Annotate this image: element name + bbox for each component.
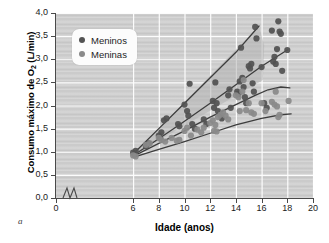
x-tick-mark — [262, 199, 263, 203]
x-tick-label: 20 — [303, 203, 323, 213]
x-tick-mark — [56, 199, 57, 203]
y-tick-mark — [51, 82, 56, 83]
x-tick-mark — [236, 199, 237, 203]
panel-label: a — [18, 216, 23, 226]
x-axis-title: Idade (anos) — [56, 222, 313, 233]
y-tick-mark — [51, 175, 56, 176]
x-tick-label: 14 — [226, 203, 246, 213]
legend-item-meninos: Meninos — [79, 33, 127, 47]
axis-break-icon — [62, 186, 78, 200]
y-tick-mark — [51, 13, 56, 14]
legend-item-meninas: Meninas — [79, 47, 127, 61]
y-tick-label: 0,0 — [22, 192, 48, 202]
legend: Meninos Meninas — [72, 29, 137, 65]
y-tick-mark — [51, 129, 56, 130]
y-tick-mark — [51, 59, 56, 60]
x-tick-mark — [313, 199, 314, 203]
y-tick-mark — [51, 152, 56, 153]
x-tick-label: 6 — [123, 203, 143, 213]
x-tick-label: 10 — [175, 203, 195, 213]
legend-marker-meninos — [79, 37, 85, 43]
x-tick-mark — [210, 199, 211, 203]
x-tick-label: 18 — [277, 203, 297, 213]
y-tick-mark — [51, 106, 56, 107]
y-axis-title: Consumo máximo de O2 (L/min) — [25, 12, 38, 192]
legend-label-meninas: Meninas — [91, 49, 127, 60]
x-tick-mark — [133, 199, 134, 203]
x-tick-mark — [159, 199, 160, 203]
y-axis-title-unit: (L/min) — [25, 32, 36, 66]
y-tick-mark — [51, 36, 56, 37]
x-tick-label: 8 — [149, 203, 169, 213]
x-tick-label: 12 — [200, 203, 220, 213]
figure-container: 0,00,51,01,52,02,53,03,54,0 068101214161… — [0, 0, 329, 243]
y-axis-title-main: Consumo máximo de O — [25, 69, 36, 173]
x-tick-mark — [185, 199, 186, 203]
x-tick-label: 0 — [46, 203, 66, 213]
x-tick-label: 16 — [252, 203, 272, 213]
y-axis-title-subscript: 2 — [30, 65, 37, 69]
x-tick-mark — [287, 199, 288, 203]
legend-marker-meninas — [79, 51, 85, 57]
legend-label-meninos: Meninos — [91, 35, 127, 46]
